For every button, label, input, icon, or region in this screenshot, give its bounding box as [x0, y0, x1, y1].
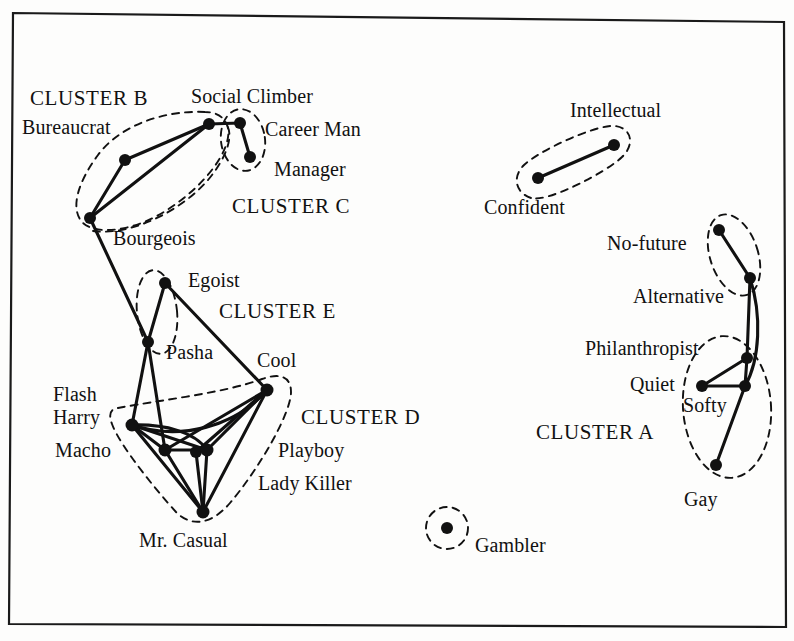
label-softy: Softy [683, 395, 727, 415]
label-social-climber: Social Climber [191, 86, 313, 106]
node-career-man[interactable] [234, 117, 246, 129]
cluster-label-c: CLUSTER C [232, 196, 350, 217]
node-alternative[interactable] [744, 272, 756, 284]
node-macho[interactable] [159, 444, 172, 457]
edge-bourgeois-social-climber [90, 124, 209, 218]
edge-bourgeois-bureaucrat [90, 160, 125, 218]
label-mr-casual: Mr. Casual [139, 530, 228, 550]
edge-philanthropist-quiet [702, 358, 747, 386]
node-manager[interactable] [244, 151, 256, 163]
node-intellectual[interactable] [608, 139, 620, 151]
node-gambler[interactable] [441, 522, 453, 534]
edge-alternative-philanthropist [747, 278, 750, 358]
edge-pasha-flash-harry [132, 342, 148, 425]
node-lady-killer[interactable] [201, 444, 214, 457]
edge-layer [90, 123, 758, 512]
cluster-label-b: CLUSTER B [30, 88, 148, 109]
cluster-label-e: CLUSTER E [219, 301, 336, 322]
node-gay[interactable] [710, 459, 722, 471]
label-philanthropist: Philanthropist [585, 338, 699, 358]
cluster-c-outline [217, 106, 269, 174]
label-career-man: Career Man [265, 119, 361, 139]
label-playboy: Playboy [278, 440, 344, 460]
label-cool: Cool [257, 350, 296, 370]
edge-bureaucrat-social-climber [125, 124, 209, 160]
label-intellectual: Intellectual [570, 100, 661, 120]
label-pasha: Pasha [166, 342, 213, 362]
label-confident: Confident [484, 197, 565, 217]
label-egoist: Egoist [188, 270, 240, 290]
node-confident[interactable] [532, 172, 544, 184]
edge-no-future-alternative [719, 230, 750, 278]
label-quiet: Quiet [630, 374, 675, 394]
label-no-future: No-future [607, 233, 687, 253]
node-cool[interactable] [261, 384, 274, 397]
cluster-label-d: CLUSTER D [301, 407, 420, 428]
node-quiet[interactable] [696, 380, 708, 392]
node-pasha[interactable] [142, 336, 154, 348]
cluster-label-a: CLUSTER A [536, 422, 654, 443]
node-playboy[interactable] [190, 446, 202, 458]
node-layer [84, 117, 756, 534]
label-bourgeois: Bourgeois [113, 228, 196, 248]
node-social-climber[interactable] [203, 118, 215, 130]
node-flash-harry[interactable] [126, 419, 139, 432]
label-alternative: Alternative [633, 286, 724, 306]
label-gay: Gay [684, 489, 718, 509]
label-manager: Manager [274, 159, 346, 179]
label-macho: Macho [55, 440, 111, 460]
label-gambler: Gambler [475, 535, 546, 555]
node-softy[interactable] [739, 380, 751, 392]
node-philanthropist[interactable] [741, 352, 753, 364]
figure-panel: CLUSTER B Bureaucrat Social Climber Bour… [0, 0, 794, 641]
edge-egoist-pasha [148, 283, 165, 342]
node-bureaucrat[interactable] [119, 154, 131, 166]
label-bureaucrat: Bureaucrat [22, 117, 111, 137]
edge-confident-intellectual [538, 145, 614, 178]
node-no-future[interactable] [713, 224, 725, 236]
node-mr-casual[interactable] [197, 506, 210, 519]
node-egoist[interactable] [159, 277, 171, 289]
label-flash-harry: Flash Harry [53, 383, 100, 429]
node-bourgeois[interactable] [84, 212, 96, 224]
label-lady-killer: Lady Killer [258, 473, 352, 493]
